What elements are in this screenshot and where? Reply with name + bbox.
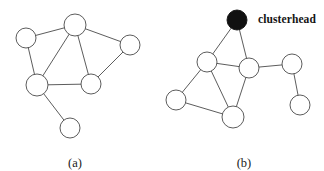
graph-edge <box>36 28 65 36</box>
clusterhead-node <box>227 10 247 30</box>
graph-node <box>239 58 259 78</box>
graph-node <box>26 74 48 96</box>
graph-edge <box>48 84 81 85</box>
figure-container: clusterhead (a) (b) <box>0 0 324 171</box>
subfigure-caption-a: (a) <box>68 157 82 170</box>
graph-node <box>60 118 80 138</box>
graph-canvas <box>0 0 324 171</box>
graph-edge <box>98 52 123 77</box>
graph-node <box>120 35 140 55</box>
graph-node <box>290 95 310 115</box>
graph-edge <box>78 36 89 75</box>
graph-edge <box>236 78 245 107</box>
graph-edge <box>28 48 34 75</box>
graph-node <box>166 90 186 110</box>
graph-edge <box>239 30 246 59</box>
graph-edge <box>294 74 298 95</box>
subfigure-caption-b: (b) <box>237 157 252 170</box>
graph-node <box>282 54 302 74</box>
graph-node <box>16 28 36 48</box>
graph-node <box>64 14 86 36</box>
graph-edge <box>44 94 64 120</box>
graph-edge <box>85 29 120 42</box>
panel-b-node-group <box>166 10 310 128</box>
panel-a-node-group <box>16 14 140 138</box>
graph-edge <box>186 103 223 114</box>
graph-edge <box>211 71 228 107</box>
graph-edge <box>213 28 231 54</box>
graph-edge <box>182 70 200 93</box>
clusterhead-label: clusterhead <box>258 14 316 26</box>
graph-edge <box>259 65 282 67</box>
graph-edge <box>217 63 239 66</box>
panel-a-edge-group <box>28 28 123 120</box>
graph-node <box>197 52 217 72</box>
graph-node <box>222 106 244 128</box>
graph-edge <box>43 34 69 75</box>
graph-node <box>81 74 101 94</box>
